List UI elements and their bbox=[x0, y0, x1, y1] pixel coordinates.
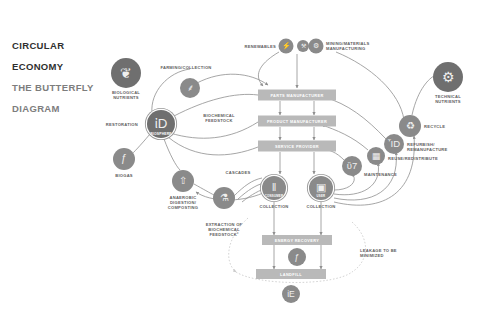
node-biological-nutrients[interactable]: ❦ bbox=[111, 58, 141, 88]
barcode-icon: ‖ bbox=[272, 182, 277, 193]
box-label-energy-recovery: ENERGY RECOVERY bbox=[275, 238, 319, 243]
node-energy-recovery-icon[interactable]: ƒ bbox=[288, 248, 306, 266]
box-service-provider[interactable]: SERVICE PROVIDER bbox=[258, 141, 336, 152]
power-icon: ⚡ bbox=[282, 42, 291, 49]
node-technical-nutrients[interactable]: ⚙ bbox=[433, 62, 463, 92]
box-energy-recovery[interactable]: ENERGY RECOVERY bbox=[262, 235, 332, 245]
factory-icon: ⚙ bbox=[313, 42, 319, 49]
label-renewables: RENEWABLES bbox=[245, 44, 276, 49]
label-consumer: COLLECTION bbox=[259, 204, 288, 209]
label-farming-collection: FARMING/COLLECTION bbox=[160, 65, 211, 70]
recycle-arrow-icon: ⇧ bbox=[179, 176, 187, 186]
label-recycle: RECYCLE bbox=[424, 124, 445, 129]
node-caption-consumer: CONSUMER bbox=[262, 194, 286, 198]
flame-icon: ƒ bbox=[121, 154, 127, 164]
wheat-icon: ⸙ bbox=[187, 83, 194, 93]
oil-rig-icon: ⚒ bbox=[301, 43, 306, 49]
leaf-icon: ❦ bbox=[120, 66, 132, 80]
box-parts-manufacturer[interactable]: PARTS MANUFACTURER bbox=[258, 90, 336, 101]
label-mining-materials: MINING/MATERIALS MANUFACTURING bbox=[326, 41, 370, 51]
node-mining-materials[interactable]: ⚙ bbox=[309, 39, 324, 54]
monitor-icon: ▣ bbox=[316, 182, 326, 193]
label-reuse-redistribute: REUSE/REDISTRIBUTE bbox=[388, 156, 438, 161]
annotation-leakage: LEAKAGE TO BE MINIMIZED bbox=[360, 248, 397, 258]
node-finite-materials[interactable]: ⚒ bbox=[297, 40, 309, 52]
factory-icon: ἾD bbox=[388, 139, 400, 149]
label-biochemical-feedstock: BIOCHEMICAL FEEDSTOCK bbox=[203, 113, 235, 123]
label-biogas: BIOGAS bbox=[115, 173, 133, 178]
label-anaerobic-digestion: ANAEROBIC DIGESTION/ COMPOSTING bbox=[168, 195, 198, 211]
butterfly-diagram-canvas: CIRCULAR ECONOMY THE BUTTERFLY DIAGRAM bbox=[0, 0, 486, 312]
box-label-product-manufacturer: PRODUCT MANUFACTURER bbox=[267, 119, 327, 124]
node-anaerobic-digestion[interactable]: ⇧ bbox=[172, 170, 194, 192]
box-icon: ▦ bbox=[372, 152, 381, 161]
node-extraction-biochemical[interactable]: ⚗ bbox=[213, 187, 235, 209]
label-cascades: CASCADES bbox=[226, 170, 251, 175]
node-maintenance[interactable]: ὒ7 bbox=[342, 156, 362, 176]
wrench-icon: ὒ7 bbox=[347, 161, 357, 171]
box-label-landfill: LANDFILL bbox=[280, 272, 302, 277]
node-farming-collection[interactable]: ⸙ bbox=[180, 78, 200, 98]
node-user[interactable]: ▣USER bbox=[309, 176, 333, 200]
label-biological-nutrients: BIOLOGICAL NUTRIENTS bbox=[112, 90, 140, 100]
node-renewables[interactable]: ⚡ bbox=[279, 39, 294, 54]
node-consumer[interactable]: ‖CONSUMER bbox=[262, 176, 286, 200]
node-caption-biosphere: BIOSPHERE bbox=[147, 132, 175, 136]
label-maintenance: MAINTENANCE bbox=[364, 172, 397, 177]
flame-icon: ƒ bbox=[295, 253, 300, 262]
node-reuse-redistribute[interactable]: ▦ bbox=[367, 147, 385, 165]
globe-icon: ἰD bbox=[155, 117, 168, 130]
label-restoration: RESTORATION bbox=[106, 122, 138, 127]
box-label-parts-manufacturer: PARTS MANUFACTURER bbox=[270, 93, 323, 98]
recycle-icon: ♻ bbox=[406, 121, 415, 131]
box-landfill[interactable]: LANDFILL bbox=[256, 269, 326, 279]
label-extraction-biochemical: EXTRACTION OF BIOCHEMICAL FEEDSTOCK² bbox=[206, 222, 243, 238]
label-user: COLLECTION bbox=[306, 204, 335, 209]
node-biosphere[interactable]: ἰDBIOSPHERE bbox=[147, 110, 175, 138]
earth-icon: ἰE bbox=[287, 290, 295, 299]
node-landfill-icon[interactable]: ἰE bbox=[282, 285, 300, 303]
box-label-service-provider: SERVICE PROVIDER bbox=[275, 144, 319, 149]
node-biogas[interactable]: ƒ bbox=[113, 148, 135, 170]
node-recycle[interactable]: ♻ bbox=[399, 115, 421, 137]
label-refurbish: REFURBISH/ REMANUFACTURE bbox=[407, 142, 448, 152]
node-refurbish[interactable]: ἾD bbox=[384, 134, 404, 154]
box-product-manufacturer[interactable]: PRODUCT MANUFACTURER bbox=[258, 116, 336, 127]
node-caption-user: USER bbox=[309, 194, 333, 198]
gear-icon: ⚙ bbox=[442, 70, 455, 84]
label-technical-nutrients: TECHNICAL NUTRIENTS bbox=[435, 94, 461, 104]
flask-icon: ⚗ bbox=[220, 193, 229, 203]
